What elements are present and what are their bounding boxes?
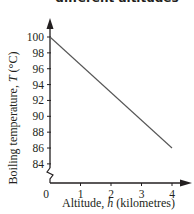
- y-axis-arrow-icon: [47, 18, 54, 29]
- y-axis-label: Boiling temperature, T (°C): [6, 52, 21, 185]
- line-chart: 848688909294969810001234: [0, 0, 194, 214]
- y-axis-label-text: Boiling temperature,: [6, 82, 20, 184]
- y-tick-label: 92: [33, 94, 45, 106]
- y-tick-label: 90: [33, 110, 45, 122]
- y-tick-label: 100: [27, 31, 45, 43]
- y-tick-label: 96: [33, 63, 45, 75]
- x-axis-label-text: Altitude,: [62, 196, 107, 210]
- x-axis-arrow-icon: [180, 180, 192, 187]
- x-axis-unit: (kilometres): [113, 196, 175, 210]
- y-tick-label: 94: [33, 79, 45, 91]
- origin-label: 0: [43, 188, 49, 200]
- y-tick-label: 84: [33, 158, 45, 170]
- y-axis-unit: (°C): [6, 52, 20, 76]
- y-axis-break-icon: [47, 168, 53, 183]
- y-tick-label: 88: [33, 126, 45, 138]
- x-axis-label: Altitude, h (kilometres): [62, 196, 175, 211]
- data-line: [50, 37, 172, 148]
- y-tick-label: 98: [33, 47, 45, 59]
- y-axis-variable: T: [6, 75, 20, 82]
- y-tick-label: 86: [33, 142, 45, 154]
